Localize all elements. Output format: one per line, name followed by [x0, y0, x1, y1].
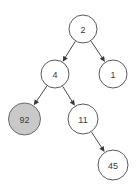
- tree-node-45[interactable]: 45: [98, 150, 128, 180]
- tree-edge-line: [36, 86, 47, 102]
- tree-edge-arrowhead-icon: [99, 146, 104, 152]
- edges-layer: [34, 41, 105, 152]
- tree-edge-line: [91, 132, 102, 149]
- tree-diagram-svg: 241921145: [0, 0, 138, 190]
- tree-edge: [91, 41, 105, 62]
- tree-edge: [63, 86, 75, 106]
- tree-edge-line: [63, 86, 73, 102]
- tree-node-label: 45: [108, 161, 118, 171]
- tree-node-label: 4: [52, 70, 57, 80]
- tree-node-label: 1: [110, 70, 115, 80]
- tree-node-label: 11: [78, 115, 87, 125]
- tree-diagram-canvas: 241921145: [0, 0, 138, 190]
- tree-node-label: 92: [19, 115, 29, 125]
- tree-node-92[interactable]: 92: [9, 103, 41, 135]
- tree-node-1[interactable]: 1: [99, 60, 127, 88]
- nodes-layer: 241921145: [9, 15, 129, 180]
- tree-node-label: 2: [80, 25, 85, 35]
- tree-edge-line: [91, 41, 103, 59]
- tree-edge: [34, 86, 47, 105]
- tree-edge-arrowhead-icon: [63, 56, 68, 62]
- tree-edge-arrowhead-icon: [70, 100, 75, 106]
- tree-edge: [63, 41, 76, 61]
- tree-edge-line: [65, 41, 76, 58]
- tree-node-4[interactable]: 4: [41, 60, 69, 88]
- tree-edge-arrowhead-icon: [34, 99, 39, 105]
- tree-edge: [91, 132, 104, 152]
- tree-edge-arrowhead-icon: [100, 56, 105, 62]
- tree-node-11[interactable]: 11: [68, 104, 98, 134]
- tree-node-2[interactable]: 2: [69, 15, 97, 43]
